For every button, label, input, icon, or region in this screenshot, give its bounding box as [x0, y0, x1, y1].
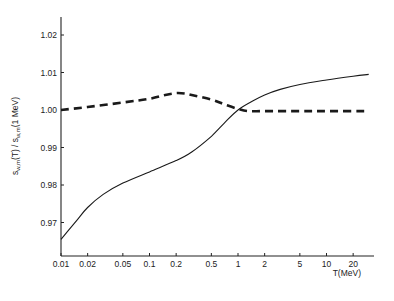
y-tick-label: 0.98	[40, 180, 57, 190]
x-tick-label: 2	[262, 259, 267, 269]
y-tick-label: 1.02	[40, 30, 57, 40]
x-ticks: 0.010.020.050.10.20.51251020	[53, 253, 358, 269]
y-tick-label: 0.99	[40, 143, 57, 153]
solid-series-line	[61, 74, 369, 239]
x-tick-label: 0.02	[79, 259, 96, 269]
x-tick-label: 0.2	[170, 259, 182, 269]
y-tick-label: 0.97	[40, 218, 57, 228]
x-tick-label: 5	[297, 259, 302, 269]
axes	[61, 17, 374, 256]
y-tick-label: 1.01	[40, 68, 57, 78]
x-axis-title: T(MeV)	[333, 268, 362, 278]
x-tick-label: 0.05	[115, 259, 132, 269]
chart: 0.010.020.050.10.20.51251020 0.970.980.9…	[0, 0, 394, 301]
x-tick-label: 0.1	[144, 259, 156, 269]
y-axis-title: sw,m(T) / sw,m(1 MeV)	[10, 97, 21, 175]
y-tick-label: 1.00	[40, 105, 57, 115]
svg-text:sw,m(T) / sw,m(1 MeV): sw,m(T) / sw,m(1 MeV)	[10, 97, 21, 175]
dashed-series-line	[61, 93, 369, 111]
series	[61, 74, 369, 239]
x-tick-label: 0.5	[205, 259, 217, 269]
x-tick-label: 0.01	[53, 259, 70, 269]
x-tick-label: 10	[322, 259, 332, 269]
x-tick-label: 1	[236, 259, 241, 269]
